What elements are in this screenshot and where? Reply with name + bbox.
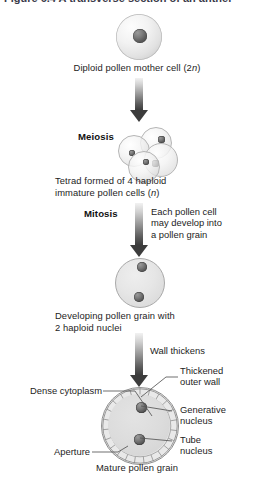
tetrad-nucleus-1 [158, 136, 165, 143]
caption-s3-line2: 2 haploid nuclei [55, 322, 255, 334]
caption-s1-post: ) [197, 62, 200, 73]
mother-cell-nucleus [133, 29, 147, 43]
caption-s2-line1: Tetrad formed of 4 haploid [55, 175, 245, 187]
pollen-development-diagram: Figure 6.4 A transverse section of an an… [0, 0, 274, 477]
label-thickened-outer-wall: Thickened outer wall [180, 365, 223, 387]
label-generative-nucleus-line1: Generative [180, 404, 226, 415]
caption-s2-line2-post: ) [156, 187, 159, 198]
arrow-2-head [130, 245, 148, 257]
caption-developing-pollen-grain: Developing pollen grain with 2 haploid n… [55, 310, 255, 333]
caption-s2-line2-pre: immature pollen cells ( [55, 187, 151, 198]
caption-mature-pollen-grain: Mature pollen grain [0, 462, 274, 474]
arrow-1-head [130, 110, 148, 122]
label-tube-nucleus-line1: Tube [180, 434, 212, 445]
caption-diploid-pollen-mother-cell: Diploid pollen mother cell (2n) [0, 62, 274, 74]
label-tube-nucleus: Tube nucleus [180, 434, 212, 456]
annot-s3-line3: a pollen grain [151, 229, 222, 240]
label-dense-cytoplasm: Dense cytoplasm [14, 385, 102, 396]
annotation-wall-thickens: Wall thickens [150, 345, 205, 356]
arrow-1-shaft [135, 78, 143, 110]
pollen-mother-cell [116, 14, 162, 60]
annotation-each-pollen-cell: Each pollen cell may develop into a poll… [151, 206, 222, 240]
developing-grain-nucleus-lower [134, 292, 144, 302]
tube-nucleus [134, 434, 145, 445]
label-generative-nucleus: Generative nucleus [180, 404, 226, 426]
developing-pollen-grain [115, 258, 165, 308]
label-tube-nucleus-line2: nucleus [180, 445, 212, 456]
stage-label-meiosis: Meiosis [78, 131, 114, 142]
label-thickened-outer-wall-line2: outer wall [180, 376, 223, 387]
label-aperture: Aperture [24, 446, 90, 457]
generative-nucleus [136, 402, 147, 413]
arrow-3-head [130, 375, 148, 387]
developing-grain-nucleus-upper [137, 262, 147, 272]
arrow-3-shaft [135, 333, 143, 375]
page-header-cutoff: Figure 6.4 A transverse section of an an… [0, 0, 274, 5]
caption-s3-line1: Developing pollen grain with [55, 310, 255, 322]
label-thickened-outer-wall-line1: Thickened [180, 365, 223, 376]
arrow-2-shaft [135, 203, 143, 245]
caption-s2-line2: immature pollen cells (n) [55, 187, 245, 199]
annot-s3-line2: may develop into [151, 217, 222, 228]
caption-s1-pre: Diploid pollen mother cell (2 [74, 62, 192, 73]
label-generative-nucleus-line2: nucleus [180, 415, 226, 426]
mature-pollen-grain [101, 387, 179, 465]
tetrad-nucleus-4 [143, 159, 149, 165]
caption-tetrad: Tetrad formed of 4 haploid immature poll… [55, 175, 245, 198]
annot-s3-line1: Each pollen cell [151, 206, 222, 217]
stage-label-mitosis: Mitosis [84, 208, 118, 219]
page-header-text: Figure 6.4 A transverse section of an an… [4, 0, 232, 4]
